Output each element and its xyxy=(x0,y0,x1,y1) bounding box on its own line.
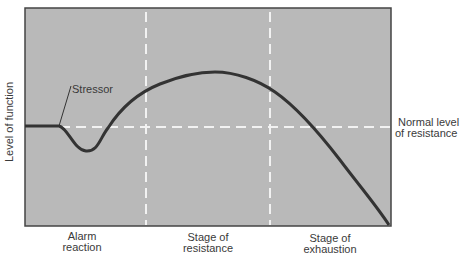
plot-panel xyxy=(25,8,391,226)
y-axis-label: Level of function xyxy=(3,72,15,172)
stage-exhaustion-line2: exhaustion xyxy=(296,244,364,255)
stage-alarm-line2: reaction xyxy=(57,242,107,253)
baseline-label-line2: of resistance xyxy=(395,128,457,139)
stressor-label: Stressor xyxy=(72,84,113,95)
stage-resistance-line2: resistance xyxy=(174,243,242,254)
